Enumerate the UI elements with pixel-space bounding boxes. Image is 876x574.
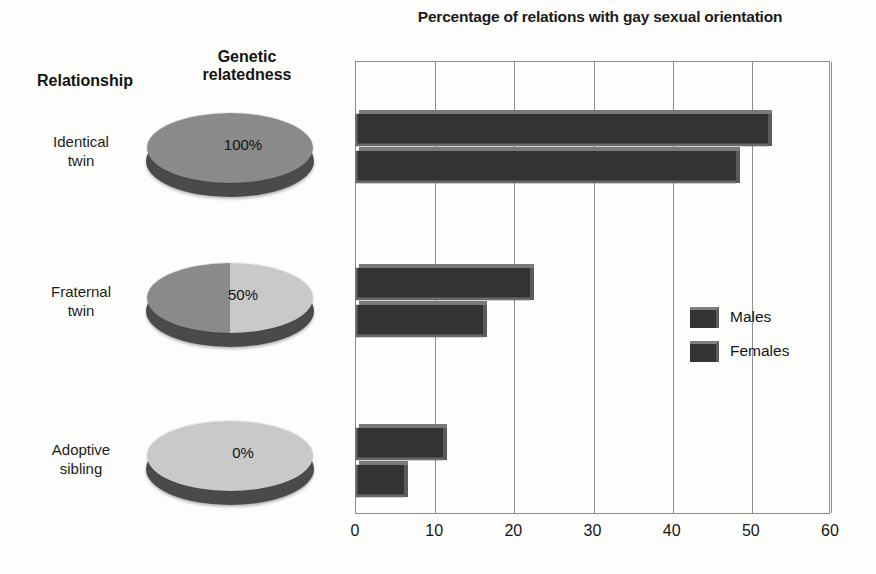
column-header-genetic-line1: Genetic bbox=[172, 48, 322, 66]
x-axis-tick-label: 10 bbox=[409, 522, 459, 540]
relatedness-value: 50% bbox=[146, 286, 314, 303]
legend-item-females: Females bbox=[690, 334, 820, 368]
legend-swatch-icon bbox=[690, 341, 719, 362]
row-label-line2: sibling bbox=[6, 460, 156, 479]
bar-adoptive-sibling-males bbox=[356, 428, 443, 460]
x-axis-tick-label: 60 bbox=[805, 522, 855, 540]
legend-label: Males bbox=[730, 308, 771, 326]
chart-title: Percentage of relations with gay sexual … bbox=[330, 8, 870, 26]
column-header-relationship: Relationship bbox=[10, 72, 160, 90]
relatedness-pie-adoptive-sibling: 0% bbox=[146, 420, 314, 492]
x-axis-tick-label: 40 bbox=[647, 522, 697, 540]
bar-identical-twin-females bbox=[356, 151, 736, 183]
row-label-adoptive-sibling: Adoptive sibling bbox=[6, 441, 156, 479]
row-label-line2: twin bbox=[6, 302, 156, 321]
row-label-identical-twin: Identical twin bbox=[6, 133, 156, 171]
plot-area bbox=[355, 61, 830, 514]
legend-item-males: Males bbox=[690, 300, 820, 334]
legend-label: Females bbox=[730, 342, 789, 360]
bar-fraternal-twin-females bbox=[356, 305, 483, 337]
relatedness-pie-identical-twin: 100% bbox=[146, 112, 314, 184]
chart-root: Percentage of relations with gay sexual … bbox=[0, 0, 876, 574]
legend: Males Females bbox=[690, 300, 820, 368]
x-axis-tick-label: 30 bbox=[568, 522, 618, 540]
legend-swatch-icon bbox=[690, 307, 719, 328]
bar-adoptive-sibling-females bbox=[356, 465, 404, 497]
row-label-line1: Identical bbox=[6, 133, 156, 152]
relatedness-value: 0% bbox=[146, 444, 314, 461]
column-header-genetic-line2: relatedness bbox=[172, 66, 322, 84]
column-header-genetic-relatedness: Genetic relatedness bbox=[172, 48, 322, 85]
row-label-fraternal-twin: Fraternal twin bbox=[6, 283, 156, 321]
x-axis-tick-label: 20 bbox=[488, 522, 538, 540]
bar-identical-twin-males bbox=[356, 114, 768, 146]
relatedness-value: 100% bbox=[146, 136, 314, 153]
row-label-line1: Fraternal bbox=[6, 283, 156, 302]
x-axis-tick-label: 50 bbox=[726, 522, 776, 540]
bar-fraternal-twin-males bbox=[356, 268, 530, 300]
gridline bbox=[831, 62, 832, 513]
row-label-line1: Adoptive bbox=[6, 441, 156, 460]
row-label-line2: twin bbox=[6, 152, 156, 171]
x-axis-tick-label: 0 bbox=[330, 522, 380, 540]
relatedness-pie-fraternal-twin: 50% bbox=[146, 262, 314, 334]
